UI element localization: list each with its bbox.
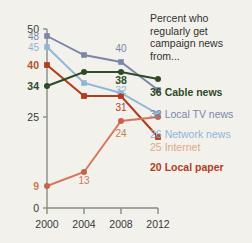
- legend-label-internet: Internet: [165, 141, 201, 154]
- point-label-local-paper-2008: 31: [115, 102, 127, 113]
- series-line-internet: [47, 117, 158, 186]
- legend-value-network-news: 26: [150, 128, 162, 141]
- point-label-local-paper-2000: 40: [27, 59, 39, 71]
- chart-title: Percent who regularly get campaign news …: [150, 12, 250, 62]
- x-tick-label-2012: 2012: [146, 218, 170, 230]
- legend-spacer-1: [150, 99, 252, 108]
- x-tick-label-2008: 2008: [109, 218, 133, 230]
- legend-item-internet: 25 Internet: [150, 141, 252, 154]
- legend-label-local-paper: Local paper: [165, 161, 224, 174]
- chart-container: 50 25 0 2000 2004 2008 2012: [0, 0, 252, 243]
- legend-label-cable-news: Cable news: [165, 86, 223, 99]
- chart-title-line-2: regularly get: [150, 25, 250, 38]
- legend-item-network-news: 26 Network news: [150, 128, 252, 141]
- data-point-network-2004: [81, 80, 87, 86]
- data-point-cable-2004: [81, 69, 87, 75]
- chart-legend: 36 Cable news 32 Local TV news 26 Networ…: [150, 86, 252, 174]
- y-tick-label-25: 25: [27, 111, 39, 123]
- x-tick-label-2000: 2000: [35, 218, 59, 230]
- legend-item-cable-news: 36 Cable news: [150, 86, 252, 99]
- legend-item-local-paper: 20 Local paper: [150, 161, 252, 174]
- data-point-network-2000: [44, 44, 50, 50]
- point-label-cable-2000: 34: [27, 80, 39, 92]
- point-label-local-tv-2000: 48: [28, 31, 40, 42]
- legend-spacer-3: [150, 154, 252, 161]
- legend-label-network-news: Network news: [165, 128, 231, 141]
- chart-title-line-3: campaign news: [150, 37, 250, 50]
- legend-value-cable-news: 36: [150, 86, 162, 99]
- point-label-local-tv-2008: 40: [115, 43, 127, 54]
- data-point-local-paper-2004: [81, 93, 87, 99]
- point-label-network-2008: 32: [115, 85, 127, 96]
- point-label-internet-2004: 13: [78, 175, 90, 186]
- data-point-internet-2000: [44, 183, 50, 189]
- point-label-network-2000: 45: [28, 42, 40, 53]
- legend-value-internet: 25: [150, 141, 162, 154]
- data-point-cable-2012: [155, 76, 161, 82]
- point-label-internet-2000: 9: [33, 180, 39, 192]
- legend-item-local-tv-news: 32 Local TV news: [150, 108, 252, 121]
- data-point-local-tv-2004: [81, 52, 87, 58]
- data-point-local-paper-2000: [44, 62, 50, 68]
- x-tick-label-2004: 2004: [72, 218, 96, 230]
- legend-spacer-2: [150, 121, 252, 128]
- data-point-local-tv-2008: [118, 59, 124, 65]
- series-line-cable-news: [47, 72, 158, 86]
- legend-value-local-tv-news: 32: [150, 108, 162, 121]
- legend-label-local-tv-news: Local TV news: [165, 108, 234, 121]
- chart-title-line-4: from...: [150, 50, 250, 63]
- data-point-local-tv-2000: [44, 33, 50, 39]
- chart-title-line-1: Percent who: [150, 12, 250, 25]
- data-point-internet-2008: [118, 118, 124, 124]
- data-point-cable-2000: [44, 83, 50, 89]
- point-label-internet-2008: 24: [115, 128, 127, 139]
- y-tick-label-0: 0: [33, 202, 39, 214]
- legend-value-local-paper: 20: [150, 161, 162, 174]
